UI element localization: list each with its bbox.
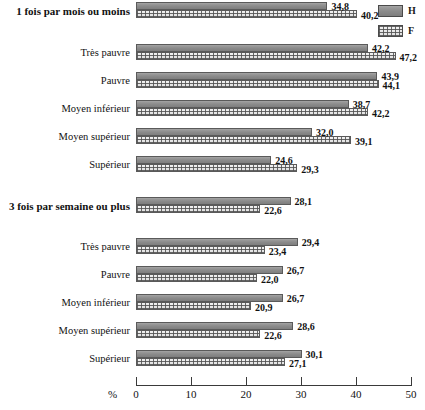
chart-container: H F 1 fois par mois ou moins34,840,2Très… [0,0,425,410]
axis-tick [356,377,357,386]
bar-value-h: 30,1 [306,350,324,359]
bar-value-f: 27,1 [289,359,307,368]
bar-value-h: 26,7 [287,266,305,275]
axis-tick [411,377,412,386]
bar-value-h: 32,0 [316,128,334,137]
axis-tick [246,377,247,386]
bar-f [136,10,357,18]
axis-tick-label: 50 [396,388,425,400]
bar-value-h: 34,8 [331,2,349,11]
bar-f [136,164,297,172]
bar-value-f: 20,9 [255,303,273,312]
axis-tick [301,377,302,386]
group-heading-label: 3 fois par semaine ou plus [2,197,130,215]
bar-h [136,100,349,108]
axis-tick [136,377,137,386]
bar-value-h: 28,6 [297,322,315,331]
bar-value-f: 44,1 [383,81,401,90]
bar-row: Pauvre26,722,0 [0,266,425,284]
category-label: Pauvre [2,72,130,90]
bar-row: Moyen supérieur28,622,6 [0,322,425,340]
axis-tick-label: 0 [121,388,151,400]
bar-h [136,266,283,274]
bar-value-f: 47,2 [400,53,418,62]
bar-value-h: 38,7 [353,100,371,109]
bar-row: Pauvre43,944,1 [0,72,425,90]
bar-h [136,72,377,80]
bar-value-h: 24,6 [275,156,293,165]
bar-row: Supérieur30,127,1 [0,350,425,368]
axis-tick [191,377,192,386]
bar-f [136,274,257,282]
bar-row: Moyen inférieur26,720,9 [0,294,425,312]
category-label: Très pauvre [2,44,130,62]
bar-h [136,156,271,164]
legend-item-f: F [378,23,424,39]
bar-value-f: 42,2 [372,109,390,118]
bar-value-f: 22,0 [261,275,279,284]
axis-tick-label: 40 [341,388,371,400]
bar-row: 1 fois par mois ou moins34,840,2 [0,2,425,20]
axis-line [136,385,411,386]
bar-f [136,302,251,310]
bar-value-h: 26,7 [287,294,305,303]
category-label: Moyen supérieur [2,322,130,340]
axis-unit-label: % [108,388,117,400]
category-label: Pauvre [2,266,130,284]
axis-tick-label: 10 [176,388,206,400]
legend-label-f: F [408,26,414,36]
category-label: Moyen inférieur [2,294,130,312]
bar-h [136,322,293,330]
bar-f [136,80,379,88]
bar-h [136,128,312,136]
category-label: Très pauvre [2,238,130,256]
bar-value-h: 29,4 [302,238,320,247]
bar-h [136,238,298,246]
bar-row: Très pauvre42,247,2 [0,44,425,62]
category-label: Supérieur [2,156,130,174]
bar-h [136,2,327,10]
bar-value-h: 28,1 [295,197,313,206]
bar-row: Très pauvre29,423,4 [0,238,425,256]
group-heading-label: 1 fois par mois ou moins [2,2,130,20]
x-axis: % 01020304050 [0,376,425,410]
bar-h [136,294,283,302]
bar-f [136,330,260,338]
bar-row: Supérieur24,629,3 [0,156,425,174]
bar-row: 3 fois par semaine ou plus28,122,6 [0,197,425,215]
bar-row: Moyen inférieur38,742,2 [0,100,425,118]
axis-tick-label: 30 [286,388,316,400]
hatched-swatch-icon [378,25,403,37]
bar-h [136,44,368,52]
category-label: Moyen supérieur [2,128,130,146]
bar-value-f: 22,6 [264,206,282,215]
bar-f [136,52,396,60]
bar-h [136,350,302,358]
bar-f [136,246,265,254]
category-label: Moyen inférieur [2,100,130,118]
bar-h [136,197,291,205]
bar-f [136,108,368,116]
category-label: Supérieur [2,350,130,368]
bar-value-f: 39,1 [355,137,373,146]
axis-tick-label: 20 [231,388,261,400]
bar-value-f: 40,2 [361,11,379,20]
bar-f [136,205,260,213]
bar-value-f: 29,3 [301,165,319,174]
bar-row: Moyen supérieur32,039,1 [0,128,425,146]
bar-value-f: 22,6 [264,331,282,340]
bar-value-f: 23,4 [269,247,287,256]
bar-value-h: 42,2 [372,44,390,53]
bar-f [136,358,285,366]
